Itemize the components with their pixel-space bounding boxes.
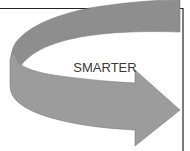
diagram-label: SMARTER xyxy=(73,60,136,75)
curved-arrow-diagram: SMARTER xyxy=(0,0,190,151)
diagram-canvas: SMARTER xyxy=(0,0,190,151)
